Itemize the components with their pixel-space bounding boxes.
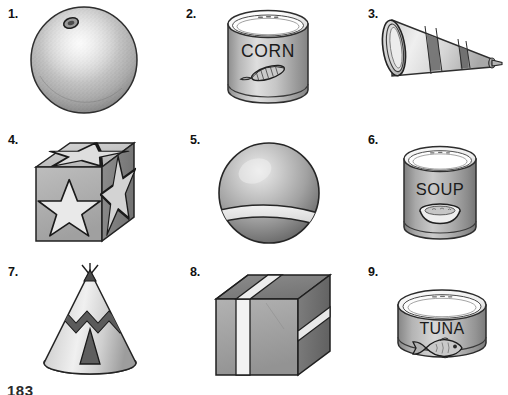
item-number-2: 2.	[186, 8, 196, 21]
worksheet-item-6: 6.	[360, 125, 508, 255]
corn-label: CORN	[241, 41, 295, 61]
figure-wrapped-box	[210, 269, 346, 385]
figure-teepee	[32, 263, 148, 381]
worksheet-item-1: 1.	[0, 0, 180, 125]
soup-label: SOUP	[416, 180, 464, 198]
figure-star-block	[28, 137, 144, 249]
figure-soup-can: SOUP	[392, 139, 496, 247]
tuna-label: TUNA	[419, 320, 464, 337]
item-number-1: 1.	[8, 8, 18, 21]
worksheet-item-5: 5.	[180, 125, 360, 255]
worksheet-item-3: 3.	[360, 0, 508, 125]
item-number-6: 6.	[368, 134, 378, 147]
item-number-7: 7.	[8, 266, 18, 279]
page-number: 183	[7, 383, 34, 395]
worksheet-item-8: 8.	[180, 255, 360, 391]
worksheet-item-9: 9.	[360, 255, 508, 391]
item-number-8: 8.	[190, 266, 200, 279]
worksheet-item-4: 4.	[0, 125, 180, 255]
figure-ball	[213, 139, 325, 251]
worksheet-item-2: 2.	[180, 0, 360, 125]
worksheet-item-7: 7.	[0, 255, 180, 391]
figure-orange	[26, 4, 142, 116]
item-number-3: 3.	[368, 8, 378, 21]
figure-tuna-can: TUNA	[390, 281, 502, 377]
figure-megaphone	[380, 4, 508, 96]
item-number-9: 9.	[368, 266, 378, 279]
item-number-4: 4.	[8, 134, 18, 147]
figure-corn-can: CORN	[212, 4, 324, 116]
item-number-5: 5.	[190, 134, 200, 147]
